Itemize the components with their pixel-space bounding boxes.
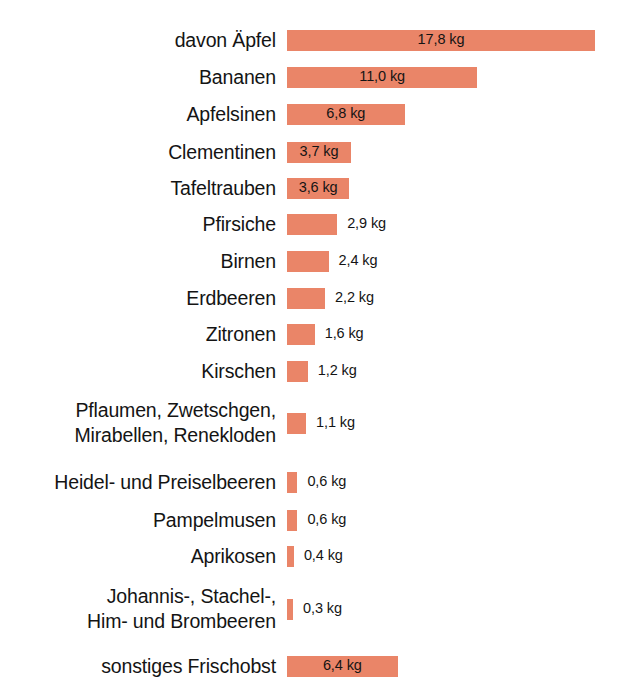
- bar: [287, 413, 306, 434]
- category-label: Zitronen: [0, 322, 287, 347]
- bar-value-label: 0,4 kg: [304, 548, 343, 564]
- bar: [287, 288, 325, 309]
- bar: 3,7 kg: [287, 142, 351, 163]
- bar-row: Erdbeeren2,2 kg: [0, 282, 623, 314]
- bar-row: Kirschen1,2 kg: [0, 355, 623, 387]
- bar-value-label: 0,6 kg: [307, 512, 346, 528]
- bar-row: Pfirsiche2,9 kg: [0, 208, 623, 240]
- category-label: sonstiges Frischobst: [0, 654, 287, 679]
- bar-value-label: 1,2 kg: [318, 363, 357, 379]
- bar-value-label: 3,6 kg: [299, 180, 338, 196]
- bar-value-label: 11,0 kg: [359, 69, 405, 85]
- bar-area: 1,1 kg: [287, 396, 623, 450]
- category-label: Kirschen: [0, 359, 287, 384]
- bar-value-label: 0,3 kg: [303, 601, 342, 617]
- category-label: Pflaumen, Zwetschgen, Mirabellen, Renekl…: [0, 398, 287, 448]
- category-label: davon Äpfel: [0, 28, 287, 53]
- bar: 6,8 kg: [287, 104, 405, 125]
- category-label: Pampelmusen: [0, 508, 287, 533]
- bar-area: 17,8 kg: [287, 24, 623, 56]
- category-label: Apfelsinen: [0, 102, 287, 127]
- bar-area: 2,9 kg: [287, 208, 623, 240]
- bar-value-label: 0,6 kg: [307, 474, 346, 490]
- bar: [287, 546, 294, 567]
- bar-area: 6,8 kg: [287, 98, 623, 130]
- category-label: Heidel- und Preiselbeeren: [0, 470, 287, 495]
- bar-row: Pflaumen, Zwetschgen, Mirabellen, Renekl…: [0, 396, 623, 450]
- bar-value-label: 6,4 kg: [323, 658, 362, 674]
- bar: [287, 214, 337, 235]
- bar-area: 0,6 kg: [287, 504, 623, 536]
- bar-row: Aprikosen0,4 kg: [0, 540, 623, 572]
- bar-area: 2,4 kg: [287, 245, 623, 277]
- bar-row: davon Äpfel17,8 kg: [0, 24, 623, 56]
- bar-row: Apfelsinen6,8 kg: [0, 98, 623, 130]
- bar: 17,8 kg: [287, 30, 595, 51]
- category-label: Bananen: [0, 65, 287, 90]
- bar: [287, 599, 293, 620]
- bar-area: 1,2 kg: [287, 355, 623, 387]
- bar-value-label: 17,8 kg: [418, 32, 465, 48]
- bar: [287, 251, 329, 272]
- bar-value-label: 3,7 kg: [300, 144, 339, 160]
- bar-row: Bananen11,0 kg: [0, 61, 623, 93]
- bar-area: 6,4 kg: [287, 650, 623, 682]
- bar-area: 3,7 kg: [287, 136, 623, 168]
- bar-row: Birnen2,4 kg: [0, 245, 623, 277]
- bar: [287, 324, 315, 345]
- bar-area: 0,6 kg: [287, 466, 623, 498]
- bar-value-label: 2,2 kg: [335, 290, 374, 306]
- bar-row: Clementinen3,7 kg: [0, 136, 623, 168]
- bar-row: Tafeltrauben3,6 kg: [0, 172, 623, 204]
- category-label: Pfirsiche: [0, 212, 287, 237]
- category-label: Erdbeeren: [0, 286, 287, 311]
- category-label: Tafeltrauben: [0, 176, 287, 201]
- bar-row: Heidel- und Preiselbeeren0,6 kg: [0, 466, 623, 498]
- category-label: Aprikosen: [0, 544, 287, 569]
- bar: 6,4 kg: [287, 656, 398, 677]
- bar-area: 3,6 kg: [287, 172, 623, 204]
- bar-value-label: 1,6 kg: [325, 326, 364, 342]
- bar-row: sonstiges Frischobst6,4 kg: [0, 650, 623, 682]
- bar-area: 11,0 kg: [287, 61, 623, 93]
- bar: 3,6 kg: [287, 178, 349, 199]
- bar-area: 0,3 kg: [287, 582, 623, 636]
- bar-value-label: 6,8 kg: [326, 106, 365, 122]
- category-label: Clementinen: [0, 140, 287, 165]
- bar: [287, 510, 297, 531]
- bar-area: 1,6 kg: [287, 318, 623, 350]
- bar-area: 0,4 kg: [287, 540, 623, 572]
- bar: [287, 472, 297, 493]
- bar: [287, 361, 308, 382]
- bar-value-label: 2,4 kg: [339, 253, 378, 269]
- bar-row: Zitronen1,6 kg: [0, 318, 623, 350]
- bar: 11,0 kg: [287, 67, 477, 88]
- bar-area: 2,2 kg: [287, 282, 623, 314]
- category-label: Birnen: [0, 249, 287, 274]
- fruit-consumption-bar-chart: davon Äpfel17,8 kgBananen11,0 kgApfelsin…: [0, 0, 623, 693]
- bar-value-label: 2,9 kg: [347, 216, 386, 232]
- bar-value-label: 1,1 kg: [316, 415, 355, 431]
- bar-row: Pampelmusen0,6 kg: [0, 504, 623, 536]
- bar-row: Johannis-, Stachel-, Him- und Brombeeren…: [0, 582, 623, 636]
- category-label: Johannis-, Stachel-, Him- und Brombeeren: [0, 584, 287, 634]
